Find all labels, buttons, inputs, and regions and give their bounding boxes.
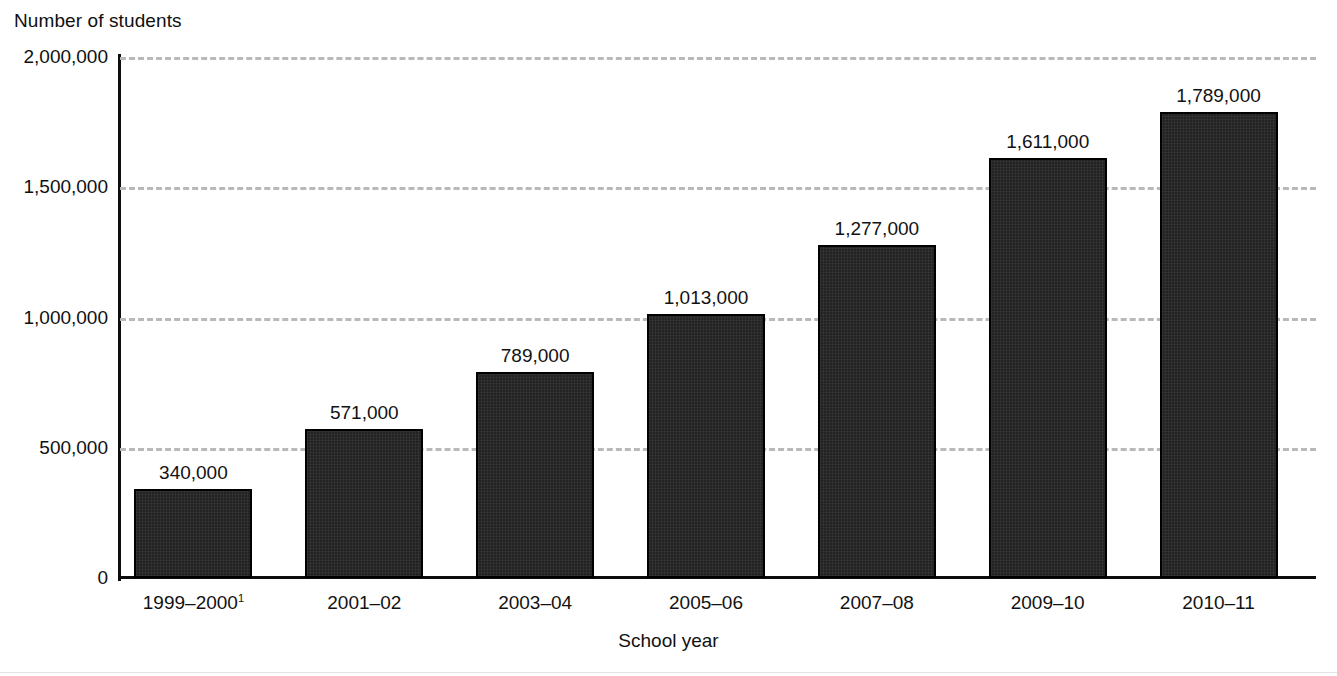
bar: 340,000 [134, 489, 252, 578]
bar-value-label: 1,013,000 [664, 287, 749, 309]
y-axis-tick-label: 0 [0, 567, 108, 589]
x-axis-title-text: School year [618, 630, 718, 652]
bar: 1,789,000 [1160, 112, 1278, 578]
bar: 1,013,000 [647, 314, 765, 578]
y-axis-title: Number of students [14, 10, 182, 32]
bar: 789,000 [476, 372, 594, 578]
bar: 571,000 [305, 429, 423, 578]
x-axis-title: School year [0, 630, 1337, 652]
plot-area: 340,000571,000789,0001,013,0001,277,0001… [120, 57, 1316, 578]
bottom-rule [0, 672, 1337, 673]
gridline [120, 57, 1316, 60]
bar-value-label: 1,789,000 [1176, 85, 1261, 107]
bar-value-label: 1,277,000 [835, 218, 920, 240]
y-axis-tick-label: 500,000 [0, 437, 108, 459]
gridline [120, 187, 1316, 190]
bar-value-label: 340,000 [159, 462, 228, 484]
x-axis-tick-label: 2010–11 [1109, 592, 1329, 614]
bar-value-label: 1,611,000 [1006, 131, 1089, 153]
footnote-marker: 1 [238, 592, 244, 604]
bar-value-label: 789,000 [501, 345, 570, 367]
bar: 1,277,000 [818, 245, 936, 578]
bar-value-label: 571,000 [330, 402, 399, 424]
y-axis-tick-label: 1,500,000 [0, 176, 108, 198]
y-axis-tick-label: 2,000,000 [0, 46, 108, 68]
y-axis-tick-label: 1,000,000 [0, 307, 108, 329]
chart-figure: Number of students 0500,0001,000,0001,50… [0, 0, 1337, 676]
bar: 1,611,000 [989, 158, 1107, 578]
